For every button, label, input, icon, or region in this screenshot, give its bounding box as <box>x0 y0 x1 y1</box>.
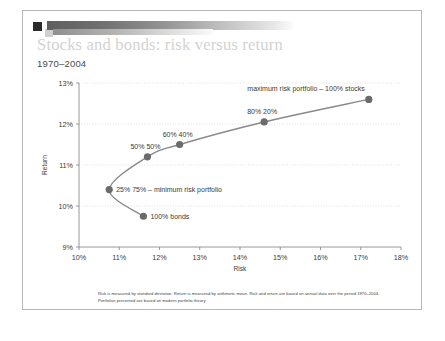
data-point-marker <box>176 141 183 148</box>
chart-svg: 9%10%11%12%13%10%11%12%13%14%15%16%17%18… <box>37 73 409 283</box>
y-tick-label: 9% <box>63 243 74 252</box>
data-point-marker <box>144 153 151 160</box>
page-subtitle: 1970–2004 <box>37 58 86 69</box>
x-tick-label: 17% <box>354 253 369 262</box>
x-tick-label: 13% <box>193 253 208 262</box>
data-point-marker <box>140 213 147 220</box>
page-title: Stocks and bonds: risk versus return <box>37 35 367 55</box>
x-tick-label: 18% <box>394 253 409 262</box>
data-point-label: maximum risk portfolio – 100% stocks <box>247 85 365 93</box>
y-axis-title: Return <box>41 155 48 175</box>
data-point-marker <box>106 186 113 193</box>
data-point-label: 50% 50% <box>130 143 160 150</box>
data-point-label: 100% bonds <box>150 213 189 220</box>
risk-return-chart: 9%10%11%12%13%10%11%12%13%14%15%16%17%18… <box>37 73 409 283</box>
square-logo-icon <box>33 22 42 31</box>
y-tick-label: 11% <box>59 161 73 170</box>
slide-frame: Stocks and bonds: risk versus return 197… <box>22 10 422 310</box>
y-tick-label: 10% <box>59 202 74 211</box>
data-point-label: 80% 20% <box>247 108 277 115</box>
x-tick-label: 12% <box>152 253 167 262</box>
x-tick-label: 16% <box>313 253 328 262</box>
x-tick-label: 14% <box>233 253 248 262</box>
y-tick-label: 13% <box>59 79 74 88</box>
x-axis-title: Risk <box>234 265 248 272</box>
data-point-marker <box>261 118 268 125</box>
data-point-label: 25% 75% – minimum risk portfolio <box>116 186 222 194</box>
footnote-text: Risk is measured by standard deviation. … <box>98 290 394 304</box>
x-tick-label: 11% <box>112 253 126 262</box>
data-point-marker <box>365 96 372 103</box>
x-tick-label: 10% <box>72 253 87 262</box>
x-tick-label: 15% <box>273 253 288 262</box>
y-tick-label: 12% <box>59 120 74 129</box>
data-point-label: 60% 40% <box>163 131 193 138</box>
